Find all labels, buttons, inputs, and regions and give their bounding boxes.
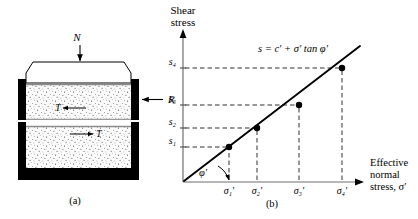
figure-svg: N T T R (a)	[0, 0, 418, 219]
normal-load-label: N	[72, 31, 81, 43]
vertical-guides	[229, 68, 342, 180]
x-tick-labels: σ₁′ σ₂′ σ₃′ σ₄′	[224, 185, 348, 196]
y-axis-arrowhead	[180, 29, 187, 38]
y-tick-label-2: s₂	[169, 116, 177, 127]
upper-box-wall-left	[18, 79, 26, 120]
figure-container: N T T R (a)	[0, 0, 418, 219]
data-point-1	[226, 144, 232, 150]
panel-b-caption: (b)	[266, 198, 279, 210]
shear-force-lower-label: T	[96, 129, 102, 139]
lower-box-wall-right	[131, 122, 139, 168]
horizontal-guides	[185, 68, 342, 147]
envelope-equation: s = c′ + σ′ tan φ′	[258, 43, 329, 54]
data-point-2	[254, 125, 260, 131]
data-points	[226, 65, 345, 150]
panel-a-caption: (a)	[69, 195, 81, 207]
y-tick-label-4: s₄	[169, 56, 177, 67]
panel-b-chart: Shear stress Effective normal stress, σ′	[169, 4, 409, 210]
x-tick-label-4: σ₄′	[337, 185, 348, 196]
x-tick-label-3: σ₃′	[294, 185, 305, 196]
y-tick-label-1: s₁	[169, 135, 176, 146]
upper-box-soil	[26, 84, 131, 119]
failure-envelope-line	[184, 46, 360, 181]
x-axis-label-line1: Effective	[370, 157, 409, 168]
shear-force-upper-label: T	[55, 103, 61, 113]
x-axis-arrowhead	[355, 179, 364, 186]
x-axis-label-line2: normal	[370, 169, 400, 180]
x-tick-label-1: σ₁′	[224, 185, 235, 196]
y-tick-label-3: s₃	[169, 93, 177, 104]
data-point-3	[296, 102, 302, 108]
loading-cap	[26, 62, 131, 83]
x-axis-label-line3: stress, σ′	[370, 181, 407, 192]
lower-box-soil	[26, 126, 131, 168]
lower-box-wall-left	[18, 122, 26, 168]
phi-angle-label: φ′	[199, 167, 208, 178]
x-tick-label-2: σ₂′	[252, 185, 263, 196]
y-axis-label-line2: stress	[171, 16, 195, 28]
upper-box-wall-right	[131, 79, 139, 120]
y-tick-labels: s₁ s₂ s₃ s₄	[169, 56, 177, 146]
phi-angle-arc	[218, 166, 229, 180]
panel-a-apparatus: N T T R (a)	[18, 31, 175, 207]
y-axis-label-line1: Shear	[170, 4, 195, 16]
data-point-4	[339, 65, 345, 71]
lower-box-base	[18, 168, 139, 180]
